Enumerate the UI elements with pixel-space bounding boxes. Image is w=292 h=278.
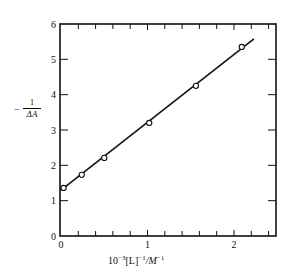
x-label-ligand: [L] [125, 255, 138, 266]
y-tick-label: 1 [51, 195, 56, 206]
fit-line [61, 39, 254, 190]
y-tick-label: 4 [51, 89, 56, 100]
y-tick-label: 5 [51, 54, 56, 65]
y-label-denominator: ΔA [27, 109, 38, 119]
x-label-exp2: −1 [138, 254, 145, 262]
x-label-unit: /M [146, 255, 157, 266]
x-tick-label: 1 [145, 239, 150, 250]
axis-ticks [60, 24, 276, 236]
x-label-base: 10 [108, 255, 118, 266]
data-point [193, 83, 198, 88]
y-label-fraction: 1 ΔA [23, 98, 41, 119]
x-label-exp3: −1 [157, 254, 164, 262]
y-tick-label: 6 [51, 19, 56, 30]
regression-line [61, 39, 254, 190]
plot-border [60, 24, 276, 236]
data-point [239, 44, 244, 49]
x-tick-label: 0 [59, 239, 64, 250]
plot-frame [60, 24, 276, 236]
x-tick-label: 2 [232, 239, 237, 250]
y-tick-label: 0 [51, 231, 56, 242]
x-axis-label: 10−3[L]−1/M−1 [108, 254, 164, 266]
data-point [79, 172, 84, 177]
tick-labels: 0123456012 [51, 19, 237, 251]
y-label-numerator: 1 [23, 98, 41, 109]
y-tick-label: 3 [51, 125, 56, 136]
chart-plot: 0123456012 [0, 0, 292, 278]
y-label-minus: − [14, 105, 20, 115]
y-tick-label: 2 [51, 160, 56, 171]
data-point [61, 185, 66, 190]
data-point [102, 155, 107, 160]
data-point [147, 120, 152, 125]
